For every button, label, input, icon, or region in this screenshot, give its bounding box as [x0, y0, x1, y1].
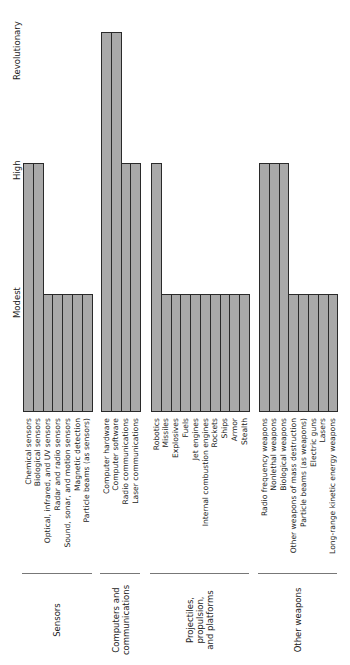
item-label: Long-range kinetic energy weapons [328, 418, 338, 578]
item-label: Biological weapons [279, 418, 289, 578]
item-label: Computer software [111, 418, 121, 578]
item-label: Missiles [161, 418, 171, 578]
item-label: Radio communications [121, 418, 131, 578]
item-label: Stealth [240, 418, 250, 578]
item-label: Electric guns [309, 418, 319, 578]
item-label: Robotics [152, 418, 162, 578]
group-divider [258, 573, 337, 574]
item-label: Optical, infrared, and UV sensors [43, 418, 53, 578]
item-label: Internal combustion engines [201, 418, 211, 578]
item-label: Biological sensors [33, 418, 43, 578]
item-label: Rockets [210, 418, 220, 578]
item-label: Particle beams (as sensors) [82, 418, 92, 578]
item-label: Nonlethal weapons [269, 418, 279, 578]
item-label: Explosives [171, 418, 181, 578]
group-divider [100, 573, 140, 574]
item-label: Jet engines [191, 418, 201, 578]
group-label: Other weapons [293, 578, 303, 662]
item-label: Sound, sonar, and motion sensors [63, 418, 73, 578]
item-label: Radio frequency weapons [260, 418, 270, 578]
level-label-modest: Modest [12, 287, 22, 318]
item-label: Ships [220, 418, 230, 578]
level-label-high: High [12, 160, 22, 180]
item-label: Lasers [318, 418, 328, 578]
item-label: Other weapons of mass destruction [289, 418, 299, 578]
item-label: Magnetic detection [73, 418, 83, 578]
item-label: Laser communications [131, 418, 141, 578]
item-label: Chemical sensors [24, 418, 34, 578]
group-divider [150, 573, 249, 574]
group-label: Computers and communications [111, 578, 131, 662]
item-label: Radar and radio sensors [53, 418, 63, 578]
item-label: Computer hardware [102, 418, 112, 578]
bar [328, 294, 339, 412]
bar [130, 163, 141, 412]
group-divider [22, 573, 92, 574]
item-label: Armor [230, 418, 240, 578]
group-label: Sensors [52, 578, 62, 662]
level-label-revolutionary: Revolutionary [12, 21, 22, 80]
item-label: Particle beams (as weapons) [299, 418, 309, 578]
bar [239, 294, 250, 412]
item-label: Fuels [181, 418, 191, 578]
group-label: Projectiles, propulsion, and platforms [185, 578, 215, 662]
rotated-bar-chart: Revolutionary High Modest Chemical senso… [0, 0, 350, 665]
bar [82, 294, 93, 412]
